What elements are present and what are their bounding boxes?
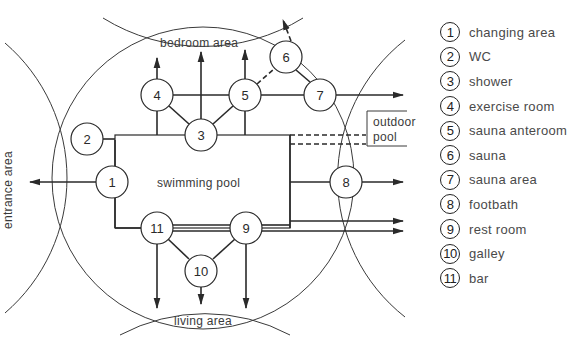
- legend-item: 6sauna: [440, 143, 567, 168]
- legend-item: 5sauna anteroom: [440, 118, 567, 143]
- svg-text:1: 1: [108, 175, 115, 190]
- svg-text:11: 11: [150, 221, 164, 236]
- svg-text:3: 3: [197, 128, 204, 143]
- legend-item: 10galley: [440, 241, 567, 266]
- legend-number: 11: [440, 268, 460, 288]
- legend-number: 1: [440, 22, 460, 42]
- legend-item: 2WC: [440, 45, 567, 70]
- legend-label: galley: [469, 246, 505, 261]
- legend-label: sauna: [469, 148, 506, 163]
- legend-item: 7sauna area: [440, 168, 567, 193]
- legend-number: 4: [440, 96, 460, 116]
- legend-label: shower: [469, 74, 513, 89]
- legend-label: rest room: [469, 222, 527, 237]
- swimming-pool-label: swimming pool: [157, 176, 240, 190]
- legend-number: 10: [440, 244, 460, 264]
- legend-item: 3shower: [440, 69, 567, 94]
- svg-text:6: 6: [282, 50, 289, 65]
- legend-number: 8: [440, 194, 460, 214]
- svg-text:4: 4: [153, 88, 160, 103]
- legend-item: 1changing area: [440, 20, 567, 45]
- node-8: 8: [330, 166, 362, 198]
- node-11: 11: [141, 212, 173, 244]
- legend-label: WC: [469, 49, 491, 64]
- node-7: 7: [304, 79, 336, 111]
- legend-item: 4exercise room: [440, 94, 567, 119]
- legend-item: 11bar: [440, 266, 567, 291]
- legend-number: 5: [440, 121, 460, 141]
- node-5: 5: [229, 79, 261, 111]
- node-4: 4: [141, 79, 173, 111]
- legend-number: 6: [440, 145, 460, 165]
- connections: [30, 20, 403, 308]
- node-9: 9: [230, 212, 262, 244]
- legend-label: sauna area: [469, 172, 537, 187]
- legend-label: exercise room: [469, 99, 555, 114]
- living-area-label: living area: [174, 314, 232, 328]
- legend-number: 7: [440, 170, 460, 190]
- legend-number: 2: [440, 47, 460, 67]
- node-1: 1: [96, 166, 128, 198]
- legend-label: footbath: [469, 197, 518, 212]
- legend-label: changing area: [469, 25, 555, 40]
- node-2: 2: [71, 123, 103, 155]
- svg-text:2: 2: [83, 132, 90, 147]
- legend-item: 8footbath: [440, 192, 567, 217]
- entrance-area-label: entrance area: [1, 151, 15, 229]
- node-6: 6: [270, 41, 302, 73]
- svg-text:8: 8: [342, 175, 349, 190]
- outdoor-pool-label-2: pool: [373, 130, 397, 144]
- svg-text:9: 9: [242, 221, 249, 236]
- legend-label: bar: [469, 271, 489, 286]
- bedroom-area-label: bedroom area: [160, 36, 238, 50]
- svg-text:10: 10: [194, 264, 208, 279]
- legend: 1changing area 2WC 3shower 4exercise roo…: [440, 20, 567, 291]
- bubble-diagram: outdoor pool bedroom area living area sw…: [0, 0, 440, 343]
- svg-text:7: 7: [316, 88, 323, 103]
- svg-text:5: 5: [241, 88, 248, 103]
- node-3: 3: [185, 119, 217, 151]
- legend-label: sauna anteroom: [469, 123, 567, 138]
- legend-number: 9: [440, 219, 460, 239]
- node-10: 10: [185, 255, 217, 287]
- legend-number: 3: [440, 71, 460, 91]
- legend-item: 9rest room: [440, 217, 567, 242]
- outdoor-pool-label-1: outdoor: [373, 115, 416, 129]
